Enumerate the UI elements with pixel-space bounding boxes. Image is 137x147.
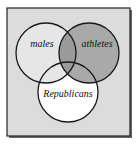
label-athletes: athletes — [81, 38, 112, 49]
label-males: males — [30, 38, 53, 49]
label-republicans: Republicans — [42, 88, 93, 99]
venn-diagram: males athletes Republicans — [0, 0, 137, 147]
